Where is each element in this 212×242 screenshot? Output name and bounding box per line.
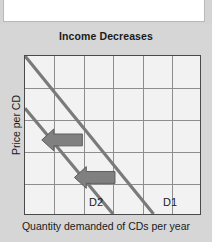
curve-label-d1: D1 bbox=[163, 196, 177, 208]
curves-and-arrows-layer bbox=[25, 56, 200, 214]
y-axis-label: Price per CD bbox=[10, 65, 22, 185]
plot-area: D2 D1 bbox=[24, 55, 201, 215]
demand-curve-d1 bbox=[25, 56, 154, 214]
chart-title: Income Decreases bbox=[0, 30, 212, 42]
shift-arrow-upper-icon bbox=[42, 129, 83, 151]
shift-arrow-lower-icon bbox=[74, 167, 115, 189]
blank-white-panel bbox=[3, 0, 205, 22]
x-axis-label: Quantity demanded of CDs per year bbox=[0, 220, 212, 232]
curve-label-d2: D2 bbox=[89, 196, 103, 208]
chart-figure: Income Decreases D2 bbox=[0, 24, 212, 242]
